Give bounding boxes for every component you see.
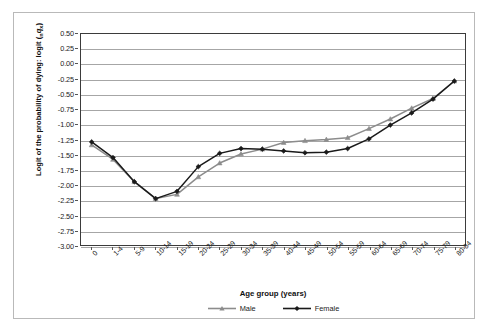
y-tick-label: -2.50 <box>58 211 74 220</box>
legend-swatch-triangle-icon <box>207 304 237 313</box>
y-tick-label: -1.75 <box>58 165 74 174</box>
y-tick-mark <box>75 140 78 141</box>
y-tick-mark <box>75 124 78 125</box>
chart-legend: MaleFemale <box>80 304 466 313</box>
y-tick-mark <box>75 200 78 201</box>
y-tick-label: -1.00 <box>58 120 74 129</box>
x-tick-mark <box>177 247 178 250</box>
y-tick-mark <box>75 246 78 247</box>
y-tick-label: -2.00 <box>58 181 74 190</box>
y-tick-label: -2.75 <box>58 226 74 235</box>
y-tick-mark <box>75 231 78 232</box>
series-male <box>89 79 456 201</box>
series-layer <box>81 34 465 245</box>
series-line <box>92 81 455 199</box>
data-point-marker <box>239 146 244 151</box>
y-tick-label: -1.50 <box>58 150 74 159</box>
y-tick-mark <box>75 48 78 49</box>
plot-area <box>80 33 466 246</box>
series-female <box>89 79 456 201</box>
x-tick-label: 1-4 <box>112 245 125 258</box>
y-tick-label: -0.25 <box>58 74 74 83</box>
series-line <box>92 81 455 199</box>
y-tick-label: 0.50 <box>60 29 74 38</box>
y-tick-label: -1.25 <box>58 135 74 144</box>
y-tick-label: 0.00 <box>60 59 74 68</box>
y-tick-mark <box>75 109 78 110</box>
y-tick-mark <box>75 79 78 80</box>
x-tick-mark <box>327 247 328 250</box>
y-tick-label: -0.50 <box>58 89 74 98</box>
y-tick-mark <box>75 216 78 217</box>
y-tick-mark <box>75 63 78 64</box>
y-tick-mark <box>75 33 78 34</box>
x-tick-mark <box>370 247 371 250</box>
data-point-marker <box>303 150 308 155</box>
y-axis-title-sub-x: x <box>37 26 43 29</box>
x-axis-title: Age group (years) <box>80 289 466 298</box>
figure-frame: Logit of the probability of dying: logit… <box>13 12 475 319</box>
y-tick-mark <box>75 170 78 171</box>
y-axis-tick-labels: 0.500.250.00-0.25-0.50-0.75-1.00-1.25-1.… <box>38 33 78 246</box>
x-axis-tick-labels: 01-45-910-1415-1920-2425-2930-3435-3940-… <box>80 247 466 291</box>
legend-item-male[interactable]: Male <box>207 304 256 313</box>
legend-swatch-diamond-icon <box>282 304 312 313</box>
y-tick-mark <box>75 185 78 186</box>
x-tick-label: 5-9 <box>134 245 147 258</box>
y-tick-label: -0.75 <box>58 105 74 114</box>
x-tick-label: 0 <box>91 249 99 257</box>
y-tick-label: -3.00 <box>58 242 74 251</box>
legend-item-female[interactable]: Female <box>282 304 340 313</box>
y-tick-label: 0.25 <box>60 44 74 53</box>
y-tick-label: -2.25 <box>58 196 74 205</box>
data-point-marker <box>345 146 350 151</box>
y-tick-mark <box>75 155 78 156</box>
legend-label: Male <box>240 304 256 313</box>
data-point-marker <box>324 150 329 155</box>
x-tick-mark <box>134 247 135 250</box>
data-point-marker <box>281 149 286 154</box>
legend-label: Female <box>315 304 340 313</box>
y-tick-mark <box>75 94 78 95</box>
